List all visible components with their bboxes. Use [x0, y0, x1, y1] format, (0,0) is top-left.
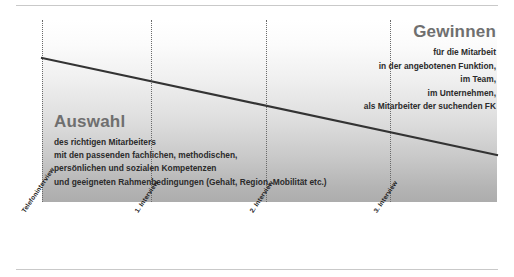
auswahl-line-2: mit den passenden fachlichen, methodisch… [54, 149, 327, 162]
gewinnen-line-3: im Team, [364, 73, 496, 87]
gewinnen-line-4: im Unternehmen, [364, 87, 496, 101]
auswahl-heading: Auswahl [54, 112, 327, 132]
auswahl-line-1: des richtigen Mitarbeiters [54, 136, 327, 149]
gewinnen-line-5: als Mitarbeiter der suchenden FK [364, 100, 496, 114]
bottom-divider-rule [16, 269, 498, 270]
gewinnen-heading: Gewinnen [364, 22, 496, 42]
gewinnen-line-2: in der angebotenen Funktion, [364, 60, 496, 74]
auswahl-line-3: persönlichen und sozialen Kompetenzen [54, 162, 327, 175]
auswahl-block: Auswahl des richtigen Mitarbeiters mit d… [54, 112, 327, 189]
gewinnen-block: Gewinnen für die Mitarbeit in der angebo… [364, 22, 496, 114]
top-divider-rule [16, 5, 498, 6]
gewinnen-line-1: für die Mitarbeit [364, 46, 496, 60]
slide-canvas: Auswahl des richtigen Mitarbeiters mit d… [0, 0, 514, 277]
auswahl-line-4: und geeigneten Rahmenbedingungen (Gehalt… [54, 176, 327, 189]
